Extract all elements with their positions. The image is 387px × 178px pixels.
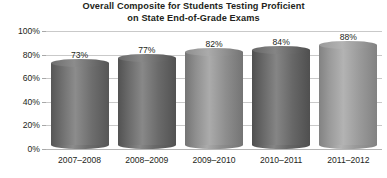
y-axis-label-40: 40% xyxy=(0,98,40,107)
bar-body xyxy=(185,52,243,145)
x-axis-label: 2007–2008 xyxy=(46,155,113,165)
bar[interactable] xyxy=(118,54,176,149)
y-tick-mark-40 xyxy=(42,102,46,103)
gridline-0 xyxy=(46,149,382,150)
bar-chart: Overall Composite for Students Testing P… xyxy=(0,0,387,178)
x-axis-label: 2009–2010 xyxy=(180,155,247,165)
bar-body xyxy=(319,45,377,145)
y-axis-label-80: 80% xyxy=(0,51,40,60)
x-axis-labels: 2007–20082008–20092009–20102010–20112011… xyxy=(46,155,382,169)
y-axis-label-20: 20% xyxy=(0,121,40,130)
bar-value-label: 88% xyxy=(318,33,378,42)
bar-value-label: 73% xyxy=(50,51,110,60)
chart-title: Overall Composite for Students Testing P… xyxy=(0,1,387,24)
chart-title-line-1: Overall Composite for Students Testing P… xyxy=(0,1,387,13)
x-axis-label: 2008–2009 xyxy=(113,155,180,165)
bar-slot xyxy=(51,31,109,149)
bar[interactable] xyxy=(51,59,109,149)
bar-slot xyxy=(252,31,310,149)
plot-area: 100%80%60%40%20%0%73%77%82%84%88% xyxy=(46,31,382,149)
bar[interactable] xyxy=(319,41,377,149)
bar-body xyxy=(252,50,310,145)
bar-top-cap xyxy=(252,46,310,54)
chart-title-line-2: on State End-of-Grade Exams xyxy=(0,13,387,25)
bar-value-label: 77% xyxy=(117,46,177,55)
bar[interactable] xyxy=(185,48,243,149)
y-axis-label-100: 100% xyxy=(0,27,40,36)
bar-value-label: 84% xyxy=(251,38,311,47)
y-tick-mark-20 xyxy=(42,125,46,126)
bar-top-cap xyxy=(51,59,109,67)
y-tick-mark-0 xyxy=(42,149,46,150)
x-axis-label: 2011–2012 xyxy=(315,155,382,165)
y-axis-label-60: 60% xyxy=(0,74,40,83)
y-tick-mark-60 xyxy=(42,78,46,79)
bar-body xyxy=(51,63,109,145)
y-tick-mark-100 xyxy=(42,31,46,32)
y-axis-label-0: 0% xyxy=(0,145,40,154)
bar-value-label: 82% xyxy=(184,40,244,49)
bar-slot xyxy=(319,31,377,149)
bar[interactable] xyxy=(252,46,310,149)
x-axis-label: 2010–2011 xyxy=(248,155,315,165)
bar-body xyxy=(118,58,176,145)
y-tick-mark-80 xyxy=(42,55,46,56)
